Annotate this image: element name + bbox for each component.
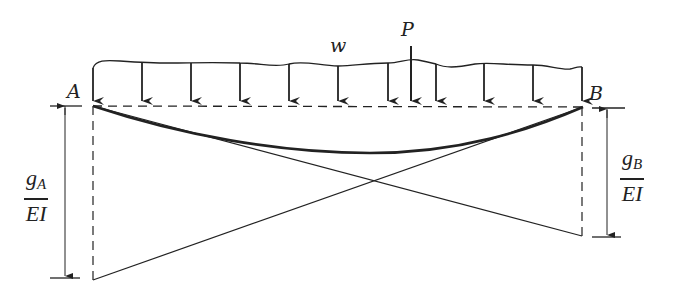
tangent-line-from-b (93, 107, 583, 280)
tangent-line-from-a (93, 106, 582, 236)
label-distributed-load-w: w (330, 34, 346, 56)
label-support-a: A (65, 80, 81, 102)
left-dimension (50, 106, 82, 278)
distributed-load-arrows (93, 63, 582, 101)
deflection-curve (93, 106, 583, 153)
label-support-b: B (588, 82, 603, 104)
beam-diagram: A B w P (0, 0, 676, 298)
left-ordinate-label: gA EI (24, 166, 48, 226)
right-ordinate-label: gB EI (620, 146, 644, 206)
reference-line-ab (93, 106, 583, 107)
label-point-load-p: P (400, 18, 415, 40)
